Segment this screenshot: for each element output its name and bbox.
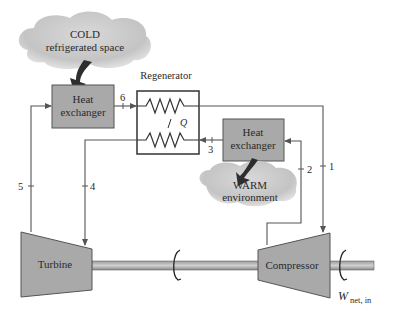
state-2-label: 2 [307, 164, 312, 175]
net-work-input-label: W net, in [338, 289, 372, 305]
svg-text:exchanger: exchanger [230, 139, 276, 151]
svg-text:Heat: Heat [73, 93, 94, 105]
state-6-label: 6 [120, 92, 125, 103]
svg-text:Compressor: Compressor [265, 259, 319, 271]
warm-heat-exchanger: Heat exchanger [223, 119, 284, 161]
svg-text:exchanger: exchanger [60, 106, 106, 118]
compressor: Compressor [258, 233, 330, 298]
refrigerated-space-label: refrigerated space [46, 41, 125, 53]
shaft [92, 261, 374, 270]
refrigeration-diagram: COLD refrigerated space Heat exchanger R… [0, 0, 400, 320]
heat-q-label: Q [180, 117, 188, 128]
state-3-label: 3 [208, 144, 213, 155]
state-4-label: 4 [90, 181, 96, 192]
cold-heat-exchanger: Heat exchanger [52, 85, 114, 128]
svg-text:environment: environment [222, 191, 278, 203]
svg-text:Heat: Heat [243, 126, 264, 138]
state-5-label: 5 [18, 181, 23, 192]
state-1-label: 1 [329, 161, 334, 172]
turbine: Turbine [21, 232, 92, 297]
svg-text:W: W [338, 289, 349, 303]
cold-label: COLD [70, 28, 100, 40]
svg-text:Turbine: Turbine [38, 258, 73, 270]
regenerator-label: Regenerator [140, 70, 192, 81]
regenerator: Regenerator Q [137, 70, 199, 154]
svg-text:net, in: net, in [350, 295, 372, 305]
